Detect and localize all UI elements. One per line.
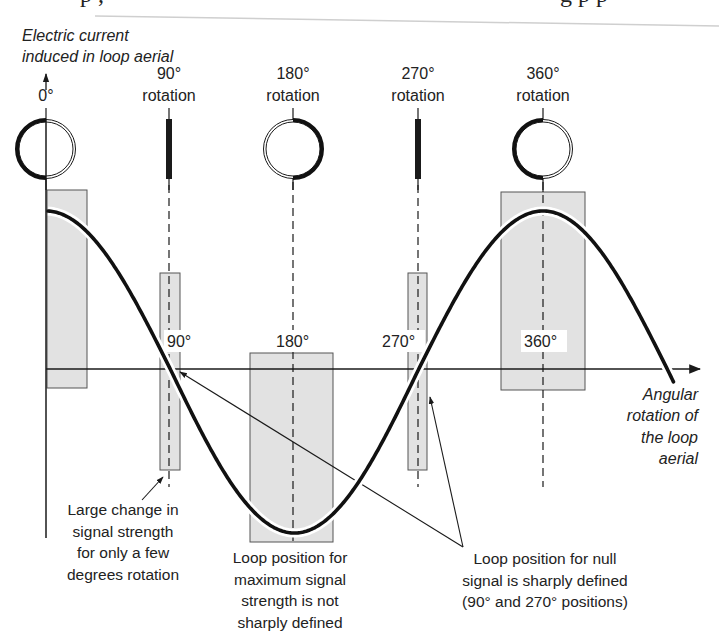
x-axis-label-line3: the loop <box>641 429 698 446</box>
loop-label-180-rot: rotation <box>266 87 319 104</box>
annotation-max-signal: Loop position for maximum signal strengt… <box>233 549 348 631</box>
loop-label-0: 0° <box>38 87 53 104</box>
loop-symbols <box>17 108 573 192</box>
loop-label-180-deg: 180° <box>276 65 309 82</box>
tick-360: 360° <box>524 333 557 350</box>
loop-label-90-rot: rotation <box>142 87 195 104</box>
svg-text:g p p: g p p <box>560 0 608 7</box>
annotation-max-signal-line2: maximum signal <box>234 571 346 588</box>
loop-360deg-circle-icon <box>514 108 573 192</box>
svg-text:p ,: p , <box>80 0 104 7</box>
annotation-large-change-line3: for only a few <box>77 544 170 561</box>
axes <box>46 74 700 538</box>
loop-label-270-rot: rotation <box>391 87 444 104</box>
annotation-large-change: Large change in signal strength for only… <box>67 501 179 583</box>
x-axis-label-line2: rotation of <box>627 407 700 424</box>
annotation-max-signal-line1: Loop position for <box>233 549 348 566</box>
annotation-large-change-line2: signal strength <box>73 523 174 540</box>
annotation-max-signal-line4: sharply defined <box>237 614 342 631</box>
tick-90: 90° <box>167 333 191 350</box>
y-axis-label: Electric current induced in loop aerial <box>22 27 174 65</box>
highlight-bands <box>47 190 585 542</box>
x-axis-label-line4: aerial <box>659 450 699 467</box>
loop-label-360-rot: rotation <box>516 87 569 104</box>
annotation-large-change-line4: degrees rotation <box>67 566 179 583</box>
annotation-null-signal: Loop position for null signal is sharply… <box>462 550 628 610</box>
y-axis-label-line1: Electric current <box>22 27 129 44</box>
annotation-large-change-line1: Large change in <box>67 501 178 518</box>
loop-label-90-deg: 90° <box>157 65 181 82</box>
annotation-max-signal-line3: strength is not <box>241 592 339 609</box>
loop-label-360-deg: 360° <box>526 65 559 82</box>
loop-aerial-diagram: p , g p p 90° 180° 270° 360° <box>0 0 719 641</box>
annotation-null-signal-line3: (90° and 270° positions) <box>462 593 628 610</box>
tick-270: 270° <box>382 333 415 350</box>
page-top-fragment: p , g p p <box>80 0 719 26</box>
loop-90deg-edge-icon <box>166 108 172 190</box>
x-axis-label: Angular rotation of the loop aerial <box>627 386 700 467</box>
arrow-null-270 <box>430 397 463 547</box>
loop-270deg-edge-icon <box>415 108 421 190</box>
y-axis-label-line2: induced in loop aerial <box>22 48 174 65</box>
annotation-null-signal-line2: signal is sharply defined <box>462 572 627 589</box>
x-axis-label-line1: Angular <box>642 386 699 403</box>
loop-180deg-circle-icon <box>264 108 323 190</box>
loop-position-labels: 0° 90° rotation 180° rotation 270° rotat… <box>38 65 569 104</box>
annotation-null-signal-line1: Loop position for null <box>473 550 616 567</box>
tick-180: 180° <box>276 333 309 350</box>
band-180deg <box>250 353 333 542</box>
loop-label-270-deg: 270° <box>401 65 434 82</box>
arrow-large-change <box>142 477 163 500</box>
